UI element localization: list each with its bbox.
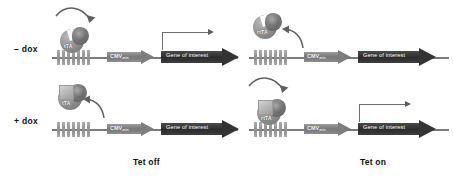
transactivator-protein-tta: tTA: [58, 83, 88, 113]
cmv-label-text: CMV: [307, 53, 319, 59]
cmv-promoter-label: CMVmin: [110, 125, 129, 131]
tre-operator-repeats: [254, 49, 287, 65]
cmv-promoter-label: CMVmin: [307, 125, 326, 131]
cmv-promoter-label: CMVmin: [110, 53, 129, 59]
protein-label: rtTA: [261, 115, 272, 121]
cmv-promoter-arrow: CMVmin: [304, 122, 351, 136]
gene-of-interest-label: Gene of interest: [363, 52, 405, 58]
transcription-arrow: [359, 102, 415, 122]
cmv-label-text: CMV: [307, 125, 319, 131]
panel-tet-on-plus-dox: rtTA CMVmin Gene of interest: [227, 78, 453, 148]
gene-of-interest-arrow: Gene of interest: [358, 48, 437, 66]
cmv-label-text: CMV: [110, 125, 122, 131]
figure-canvas: – dox tTA CMVmin: [0, 0, 453, 182]
transactivator-protein-rtta: rtTA: [257, 98, 287, 128]
doxycycline-molecule: [59, 85, 74, 100]
dox-condition-label: – dox: [14, 44, 38, 54]
gene-of-interest-label: Gene of interest: [166, 52, 208, 58]
protein-label: rtTA: [257, 29, 268, 35]
caption-tet-off: Tet off: [133, 157, 160, 167]
cmv-arrow-head: [141, 122, 154, 136]
cmv-label-subscript: min: [122, 56, 128, 60]
transactivator-protein-rtta: rtTA: [253, 12, 283, 42]
protein-lobe: [72, 27, 89, 45]
gene-of-interest-arrow: Gene of interest: [358, 120, 437, 138]
panel-tet-off-minus-dox: – dox tTA CMVmin: [0, 6, 226, 76]
transcription-arrow-shaft: [359, 104, 407, 105]
gene-arrow-head: [419, 48, 436, 66]
cmv-label-subscript: min: [122, 128, 128, 132]
gene-of-interest-label: Gene of interest: [166, 124, 208, 130]
transcription-arrow-head: [208, 29, 214, 35]
cmv-arrow-head: [141, 50, 154, 64]
panel-tet-off-plus-dox: + dox tTA CMVmin Gene of intere: [0, 78, 226, 148]
panel-tet-on-minus-dox: rtTA CMVmin Gene of interest: [227, 6, 453, 76]
transcription-arrow-head: [405, 101, 411, 107]
cmv-label-text: CMV: [110, 53, 122, 59]
cmv-label-subscript: min: [319, 128, 325, 132]
protein-label: tTA: [64, 43, 73, 49]
cmv-promoter-label: CMVmin: [307, 53, 326, 59]
transcription-arrow: [162, 30, 218, 50]
cmv-promoter-arrow: CMVmin: [107, 50, 154, 64]
cmv-promoter-arrow: CMVmin: [304, 50, 351, 64]
transcription-arrow-shaft: [162, 32, 210, 33]
cmv-label-subscript: min: [319, 56, 325, 60]
tre-operator-repeats: [57, 121, 90, 137]
gene-of-interest-label: Gene of interest: [363, 124, 405, 130]
dox-condition-label: + dox: [14, 116, 38, 126]
doxycycline-molecule: [258, 100, 273, 115]
cmv-arrow-head: [338, 122, 351, 136]
caption-tet-on: Tet on: [360, 157, 386, 167]
cmv-promoter-arrow: CMVmin: [107, 122, 154, 136]
protein-label: tTA: [62, 100, 71, 106]
gene-arrow-head: [419, 120, 436, 138]
transactivator-protein-tta: tTA: [60, 26, 90, 56]
cmv-arrow-head: [338, 50, 351, 64]
